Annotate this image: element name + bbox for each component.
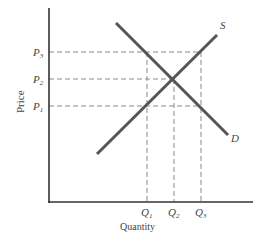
p1-label: P1 [32,100,43,114]
x-axis-title: Quantity [120,221,155,232]
supply-label: S [220,19,226,31]
y-axis-title: Price [14,90,26,113]
demand-label: D [230,132,239,144]
q3-label: Q3 [195,206,207,220]
supply-demand-chart: S D P3 P2 P1 Q1 Q2 Q3 Quantity Price [0,0,260,236]
p3-label: P3 [32,46,44,60]
q2-label: Q2 [168,206,180,220]
supply-curve [97,35,217,154]
p2-label: P2 [32,73,44,87]
q1-label: Q1 [141,206,152,220]
